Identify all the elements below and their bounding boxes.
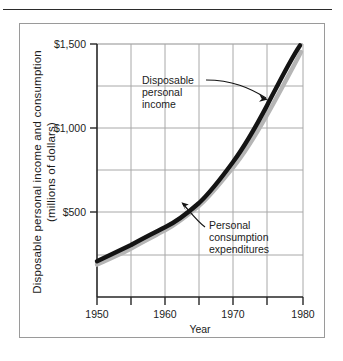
top-horizontal-rule <box>3 9 332 10</box>
y-tick-label-1000: $1,000 <box>54 122 86 134</box>
annotation-label-line-3: income <box>142 98 176 110</box>
y-axis-ticks <box>90 44 97 212</box>
x-tick-label-1950: 1950 <box>85 308 109 320</box>
figure-root: $1,500 $1,000 $500 1950 1960 1970 1980 Y… <box>0 0 343 361</box>
x-tick-label-1960: 1960 <box>153 308 177 320</box>
annotation-label-line-2: personal <box>142 86 182 98</box>
y-axis-title-line1: Disposable personal income and consumpti… <box>31 50 43 294</box>
y-axis-title-line2: (millions of dollars) <box>45 122 57 222</box>
x-tick-label-1970: 1970 <box>221 308 245 320</box>
x-tick-label-1980: 1980 <box>291 308 315 320</box>
annotation-label-line-1: Disposable <box>142 74 194 86</box>
x-axis-ticks <box>97 297 303 305</box>
line-chart: $1,500 $1,000 $500 1950 1960 1970 1980 Y… <box>20 24 324 337</box>
y-tick-label-1500: $1,500 <box>54 38 86 50</box>
annotation-label-line-2: consumption <box>209 231 269 243</box>
annotation-label-line-3: expenditures <box>209 243 269 255</box>
annotation-label-line-1: Personal <box>209 219 250 231</box>
x-axis-title: Year <box>189 323 211 335</box>
figure-frame: $1,500 $1,000 $500 1950 1960 1970 1980 Y… <box>19 23 325 338</box>
y-tick-label-500: $500 <box>63 206 87 218</box>
